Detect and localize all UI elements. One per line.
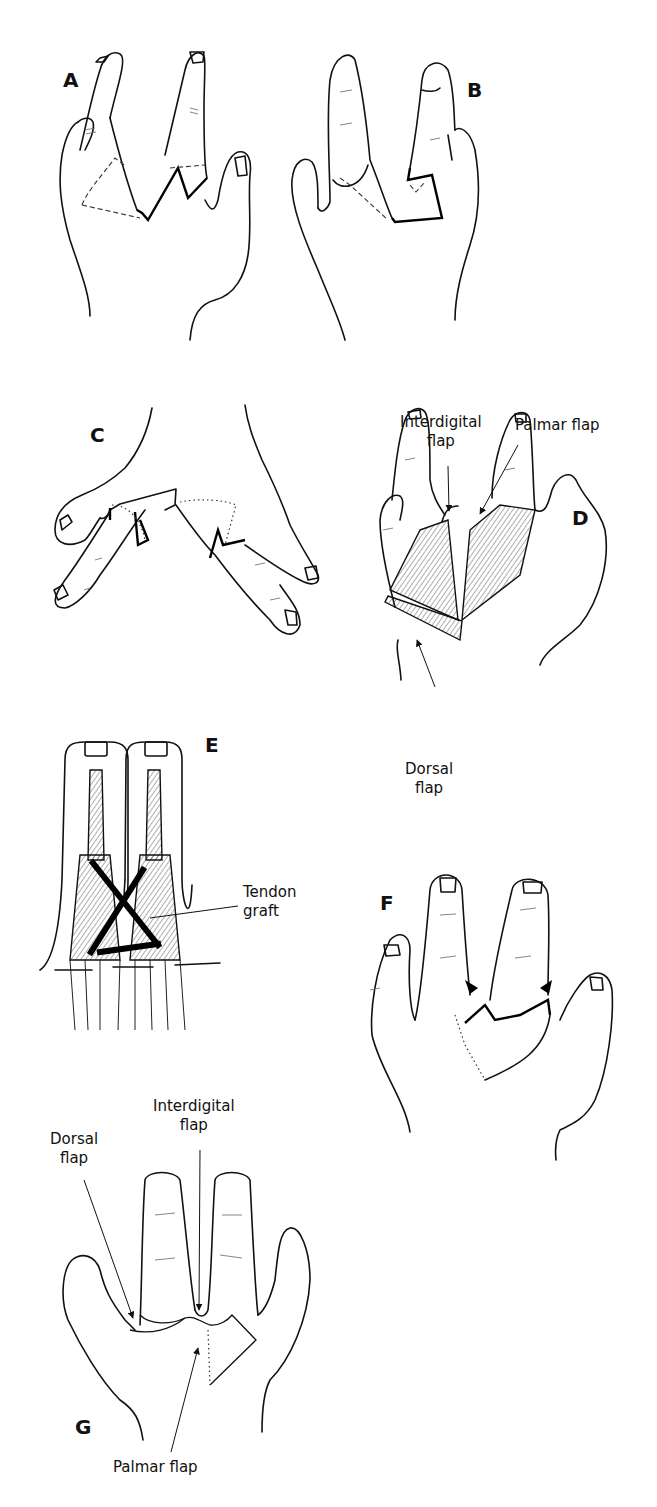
panel-label-g: G bbox=[75, 1417, 91, 1437]
panel-label-a: A bbox=[63, 70, 78, 90]
label-interdigital-flap-d: Interdigital flap bbox=[400, 413, 482, 451]
arrow-icon bbox=[540, 980, 552, 994]
panel-b-hand bbox=[292, 55, 478, 340]
arrow-icon bbox=[171, 1348, 198, 1452]
label-palmar-flap-g: Palmar flap bbox=[113, 1458, 198, 1477]
label-palmar-flap-d: Palmar flap bbox=[515, 416, 600, 435]
surgical-figure: A B C D E F G Interdigital flap Palmar f… bbox=[0, 0, 657, 1507]
panel-g-hand bbox=[63, 1173, 310, 1441]
panel-label-f: F bbox=[380, 893, 394, 913]
arrow-icon bbox=[448, 466, 449, 511]
panel-a-hand bbox=[60, 52, 250, 340]
arrow-icon bbox=[480, 445, 518, 514]
arrow-icon bbox=[417, 640, 435, 687]
arrow-icon bbox=[465, 980, 478, 994]
figure-illustrations bbox=[0, 0, 657, 1507]
panel-label-d: D bbox=[572, 508, 589, 528]
arrow-icon bbox=[84, 1180, 133, 1318]
arrow-icon bbox=[199, 1150, 200, 1310]
label-dorsal-flap-g: Dorsal flap bbox=[50, 1130, 98, 1168]
panel-f-hand bbox=[370, 875, 612, 1160]
panel-label-b: B bbox=[467, 80, 482, 100]
panel-label-c: C bbox=[90, 425, 105, 445]
label-dorsal-flap-d: Dorsal flap bbox=[405, 760, 453, 798]
label-interdigital-flap-g: Interdigital flap bbox=[153, 1097, 235, 1135]
label-tendon-graft: Tendon graft bbox=[243, 883, 297, 921]
panel-label-e: E bbox=[205, 735, 219, 755]
